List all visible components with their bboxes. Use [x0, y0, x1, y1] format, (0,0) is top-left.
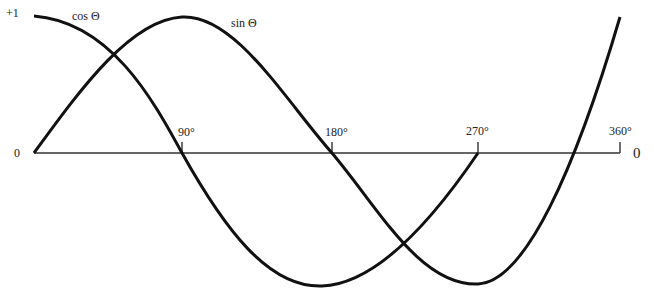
tick-label-90: 90°	[178, 125, 195, 140]
sin-label: sin Θ	[231, 16, 257, 31]
tick-label-180: 180°	[325, 125, 348, 140]
tick-label-360: 360°	[609, 124, 632, 139]
sine-cosine-chart: +1 0 0 cos Θ sin Θ 90° 180° 270° 360°	[0, 0, 654, 298]
cos-tail	[0, 0, 654, 298]
y-tick-zero: 0	[14, 146, 20, 161]
tick-label-270: 270°	[466, 124, 489, 139]
right-axis-zero: 0	[633, 145, 641, 162]
cos-label: cos Θ	[72, 9, 100, 24]
y-tick-plus-one: +1	[6, 6, 19, 21]
